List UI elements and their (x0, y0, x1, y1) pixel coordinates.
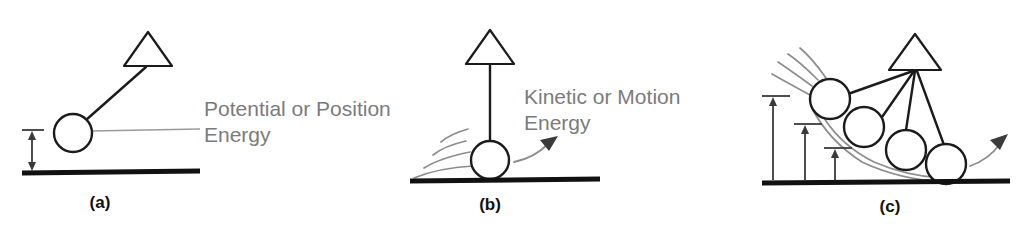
pendulum-rod-c-1 (848, 71, 913, 94)
panel-caption-b: (b) (479, 195, 501, 214)
pendulum-bob-b (471, 141, 509, 179)
pivot-triangle-c (889, 34, 941, 70)
ground-line-a (22, 171, 200, 173)
potential-energy-label-line1: Potential or Position (204, 97, 391, 120)
pendulum-bob-a (54, 114, 92, 152)
pivot-triangle-b (466, 30, 514, 64)
panel-a: Potential or Position Energy (a) (22, 32, 391, 212)
pendulum-rod-a (86, 67, 146, 120)
motion-trail-c-2 (788, 54, 818, 80)
pendulum-energy-figure: Potential or Position Energy (a) Kinetic… (0, 0, 1027, 235)
motion-trail-b-1 (441, 129, 468, 142)
ground-line-c (762, 181, 1010, 183)
motion-trail-c-3 (778, 62, 812, 86)
motion-arrow-line-c (970, 144, 1000, 166)
height-arrowhead-c-2 (801, 125, 809, 134)
motion-arrow-line-b (514, 144, 548, 162)
height-arrowhead-c-3 (831, 149, 839, 158)
height-arrowhead-down-a (28, 162, 36, 171)
kinetic-energy-label-line2: Energy (524, 111, 591, 134)
diagram-canvas: Potential or Position Energy (a) Kinetic… (0, 0, 1027, 235)
motion-trail-b-4 (414, 166, 473, 178)
motion-trail-c-4 (772, 74, 810, 95)
pendulum-bob-c-4 (926, 144, 966, 184)
kinetic-energy-label-line1: Kinetic or Motion (524, 85, 680, 108)
motion-trail-c-1 (800, 48, 826, 78)
pivot-triangle-a (124, 32, 172, 66)
height-arrowhead-up-a (28, 131, 36, 140)
panel-b: Kinetic or Motion Energy (b) (410, 30, 680, 214)
height-arrowhead-c-1 (769, 97, 777, 106)
potential-energy-label-line2: Energy (204, 123, 271, 146)
ground-line-b (410, 179, 600, 181)
pendulum-bob-c-2 (844, 107, 884, 147)
panel-caption-c: (c) (880, 197, 901, 216)
pendulum-rod-c-4 (917, 71, 944, 145)
pendulum-bob-c-1 (810, 79, 850, 119)
pendulum-bob-c-3 (886, 130, 926, 170)
motion-arrowhead-c (990, 134, 1008, 150)
panel-c: (c) (762, 34, 1010, 216)
panel-caption-a: (a) (90, 193, 111, 212)
leader-line-potential (92, 129, 200, 131)
motion-trail-b-2 (433, 141, 466, 155)
motion-trail-b-3 (424, 152, 470, 168)
